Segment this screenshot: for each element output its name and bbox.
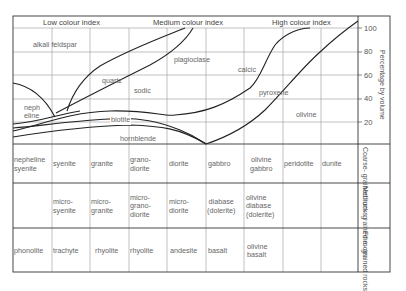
cell-trachyte: trachyte [53, 231, 90, 271]
cell-text: granite [91, 160, 113, 169]
cell-text: peridotite [284, 160, 314, 169]
label-sodic: sodic [134, 87, 151, 96]
header-high-colour-index: High colour index [272, 18, 331, 27]
y-tick-80: 80 [364, 47, 372, 56]
cell-text: diorite [130, 211, 151, 220]
cell-text: gabbro [250, 165, 272, 174]
cell-microdiorite: micro-diorite [169, 186, 206, 227]
label-quartz: quartz [102, 77, 122, 86]
row-label-line: Coarse- [362, 147, 369, 172]
cell-text: syenite [14, 165, 45, 174]
row-label-line: grained [362, 249, 369, 272]
cell-nepheline-syenite: nephelinesyenite [14, 147, 52, 182]
cell-text: basalt [247, 251, 267, 260]
cell-diorite: diorite [169, 147, 206, 182]
cell-granite: granite [91, 147, 129, 182]
cell-text: (dolerite) [207, 207, 235, 216]
cell-text: dunite [322, 160, 342, 169]
row-label-medium-grained: Medium- grained rocks [362, 186, 369, 227]
cell-text: rhyolite [95, 247, 118, 256]
cell-granodiorite: grano-diorite [130, 147, 167, 182]
label-calcic: calcic [238, 66, 256, 75]
row-label-fine-grained: Fine- grained rocks [362, 231, 369, 271]
row-label-line: Medium- [362, 186, 369, 213]
label-olivine: olivine [296, 111, 316, 120]
cell-text: rhyolite [130, 247, 153, 256]
label-pyroxene: pyroxene [259, 89, 289, 98]
row-label-coarse-grained: Coarse- grained rocks [362, 147, 369, 183]
cell-text: andesite [170, 247, 197, 256]
cell-olivine-diabase: olivinediabase(dolerite) [246, 186, 283, 227]
cell-phonolite: phonolite [14, 231, 52, 271]
cell-microgranite: micro-granite [91, 186, 129, 227]
cell-microgranodiorite: micro-grano-diorite [130, 186, 167, 227]
cell-peridotite: peridotite [284, 147, 321, 182]
cell-text: (dolerite) [246, 211, 274, 220]
label-alkali-feldspar: alkali feldspar [33, 41, 77, 50]
header-medium-colour-index: Medium colour index [153, 18, 223, 27]
cell-text: syenite [53, 160, 76, 169]
label-plagioclase: plagioclase [174, 56, 210, 65]
label-biotite: biotite [110, 116, 131, 125]
y-tick-40: 40 [364, 94, 372, 103]
cell-rhyolite: rhyolite [95, 231, 129, 271]
cell-microsyenite: micro-syenite [53, 186, 90, 227]
cell-olivine-basalt: olivinebasalt [247, 231, 283, 271]
header-low-colour-index: Low colour index [43, 18, 100, 27]
cell-diabase-dolerite: diabase(dolerite) [207, 186, 244, 227]
row-label-line: Fine- [362, 231, 369, 247]
cell-text: diorite [130, 165, 151, 174]
cell-gabbro: gabbro [208, 147, 244, 182]
y-tick-60: 60 [364, 71, 372, 80]
cell-basalt: basalt [208, 231, 244, 271]
label-nepheline-2: eline [24, 112, 39, 121]
label-hornblende: hornblende [120, 135, 156, 144]
cell-text: trachyte [53, 247, 79, 256]
cell-text: basalt [208, 247, 227, 256]
cell-dunite: dunite [322, 147, 358, 182]
y-axis-label: Percentage by volume [378, 50, 386, 140]
cell-text: syenite [53, 207, 76, 216]
curve-pyroxene-olivine-boundary [206, 21, 358, 144]
cell-olivine-gabbro: olivinegabbro [250, 147, 283, 182]
cell-text: diorite [169, 207, 189, 216]
cell-andesite: andesite [170, 231, 206, 271]
cell-text: diorite [169, 160, 189, 169]
cell-text: phonolite [14, 247, 43, 256]
y-tick-20: 20 [364, 118, 372, 127]
cell-text: granite [91, 207, 113, 216]
curve-hornblende-lower [13, 125, 206, 144]
cell-rhyolite-2: rhyolite [130, 231, 167, 271]
y-tick-100: 100 [364, 24, 377, 33]
cell-text: gabbro [208, 160, 230, 169]
row-label-line: rocks [362, 274, 369, 291]
cell-syenite: syenite [53, 147, 90, 182]
